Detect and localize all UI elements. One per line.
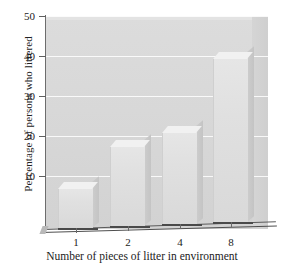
bar-top-1 xyxy=(58,182,98,189)
bar-base-1 xyxy=(58,228,98,230)
y-tick-50 xyxy=(39,16,46,17)
bar-face-2 xyxy=(110,146,145,226)
bar-base-2 xyxy=(110,226,150,228)
x-tick-label-1: 1 xyxy=(61,236,91,248)
y-tick-label-10: 10 xyxy=(1,170,35,182)
x-tick-2 xyxy=(128,226,129,231)
bar-category-4 xyxy=(162,132,196,224)
x-tick-8 xyxy=(231,222,232,227)
y-tick-40 xyxy=(39,56,46,57)
bar-face-8 xyxy=(213,58,248,222)
bar-side-2 xyxy=(144,134,151,226)
x-tick-label-2: 2 xyxy=(113,236,143,248)
plot-right-wall xyxy=(252,16,268,229)
bar-top-4 xyxy=(162,126,202,133)
y-tick-label-50: 50 xyxy=(1,10,35,22)
x-tick-label-8: 8 xyxy=(216,236,246,248)
x-tick-4 xyxy=(180,224,181,229)
y-tick-label-20: 20 xyxy=(1,130,35,142)
bar-category-1 xyxy=(58,188,92,228)
x-tick-1 xyxy=(76,228,77,233)
bar-base-4 xyxy=(162,224,202,226)
y-axis-line xyxy=(45,15,46,230)
bar-category-8 xyxy=(213,58,247,222)
x-axis-title: Number of pieces of litter in environmen… xyxy=(0,250,284,262)
bar-face-1 xyxy=(58,188,93,228)
y-tick-label-40: 40 xyxy=(1,50,35,62)
y-axis-title: Percentage of persons who littered xyxy=(22,14,34,214)
y-tick-10 xyxy=(39,176,46,177)
bar-side-8 xyxy=(247,46,254,222)
y-tick-20 xyxy=(39,136,46,137)
bar-chart-figure: Percentage of persons who littered 50 40… xyxy=(0,0,284,268)
bar-category-2 xyxy=(110,146,144,226)
bar-top-2 xyxy=(110,140,150,147)
x-tick-label-4: 4 xyxy=(165,236,195,248)
y-tick-label-30: 30 xyxy=(1,90,35,102)
gridline-50 xyxy=(46,16,268,17)
bar-face-4 xyxy=(162,132,197,224)
bar-side-4 xyxy=(196,120,203,224)
bar-top-8 xyxy=(213,52,253,59)
y-tick-30 xyxy=(39,96,46,97)
bar-base-8 xyxy=(213,222,253,224)
